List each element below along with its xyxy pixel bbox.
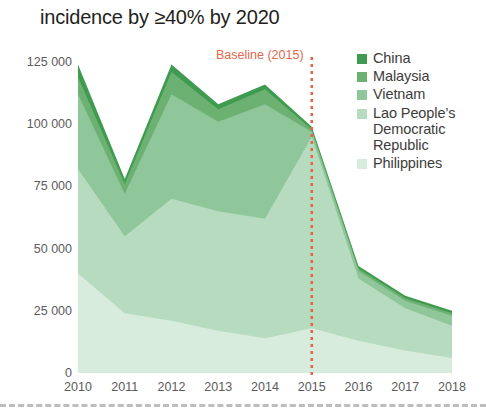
legend-item[interactable]: China — [357, 50, 485, 66]
legend-item[interactable]: Vietnam — [357, 86, 485, 102]
y-axis-tick-label: 125 000 — [10, 55, 72, 69]
legend-swatch-icon — [357, 90, 367, 100]
chart-container: incidence by ≥40% by 2020 025 00050 0007… — [0, 0, 486, 417]
y-axis-tick-label: 75 000 — [10, 179, 72, 193]
x-axis-tick-label: 2010 — [64, 380, 92, 394]
baseline-annotation-label: Baseline (2015) — [216, 48, 304, 62]
x-axis-tick-label: 2011 — [111, 380, 138, 394]
legend-swatch-icon — [357, 109, 367, 119]
legend-item-label: China — [373, 50, 410, 66]
x-axis-tick-label: 2013 — [204, 380, 232, 394]
y-axis-tick-label: 0 — [10, 366, 72, 380]
legend-item-label: Philippines — [373, 155, 442, 171]
legend-item[interactable]: Malaysia — [357, 68, 485, 84]
x-axis-tick-label: 2018 — [438, 380, 466, 394]
y-axis-tick-label: 50 000 — [10, 242, 72, 256]
x-axis-tick-label: 2016 — [345, 380, 373, 394]
legend-swatch-icon — [357, 54, 367, 64]
legend-item[interactable]: Lao People’sDemocraticRepublic — [357, 105, 485, 154]
legend-swatch-icon — [357, 72, 367, 82]
x-axis-tick-label: 2015 — [298, 380, 326, 394]
y-axis: 025 00050 00075 000100 000125 000 — [10, 0, 72, 417]
x-axis-tick-label: 2017 — [391, 380, 419, 394]
legend-item-label: Lao People’sDemocraticRepublic — [373, 105, 455, 154]
legend-item-label: Vietnam — [373, 86, 425, 102]
y-axis-tick-label: 25 000 — [10, 304, 72, 318]
legend-swatch-icon — [357, 159, 367, 169]
y-axis-tick-label: 100 000 — [10, 117, 72, 131]
legend-item-label: Malaysia — [373, 68, 429, 84]
x-axis-tick-label: 2012 — [158, 380, 186, 394]
bottom-divider — [0, 404, 486, 407]
legend: ChinaMalaysiaVietnamLao People’sDemocrat… — [357, 50, 485, 174]
x-axis-tick-label: 2014 — [251, 380, 279, 394]
legend-item[interactable]: Philippines — [357, 155, 485, 171]
